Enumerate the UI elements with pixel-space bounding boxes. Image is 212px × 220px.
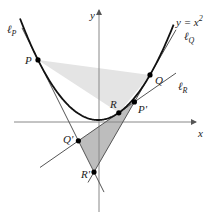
line-label-lq: ℓQ bbox=[184, 30, 195, 45]
diagram-canvas: y = x2 y x ℓP ℓQ ℓR P Q R P' Q' R' bbox=[0, 0, 212, 220]
point-q bbox=[147, 72, 152, 77]
point-label-q-prime: Q' bbox=[63, 133, 74, 145]
x-axis-label: x bbox=[197, 127, 203, 139]
point-label-p-prime: P' bbox=[137, 103, 148, 115]
tangent-line-q bbox=[88, 30, 176, 183]
point-r bbox=[116, 110, 121, 115]
point-p-prime bbox=[132, 99, 137, 104]
point-label-r-prime: R' bbox=[80, 168, 91, 180]
line-label-lp: ℓP bbox=[7, 23, 17, 38]
parabola-tangent-diagram: y = x2 y x ℓP ℓQ ℓR P Q R P' Q' R' bbox=[0, 0, 212, 220]
curve-label: y = x2 bbox=[175, 14, 203, 28]
point-p bbox=[35, 57, 40, 62]
point-label-p: P bbox=[24, 54, 32, 66]
triangle-p-prime-q-prime-r-prime bbox=[78, 102, 134, 172]
point-label-r: R bbox=[109, 98, 117, 110]
point-q-prime bbox=[76, 138, 81, 143]
point-label-q: Q bbox=[155, 74, 163, 86]
point-r-prime bbox=[91, 169, 96, 174]
y-axis-label: y bbox=[89, 9, 95, 21]
line-label-lr: ℓR bbox=[178, 80, 188, 95]
